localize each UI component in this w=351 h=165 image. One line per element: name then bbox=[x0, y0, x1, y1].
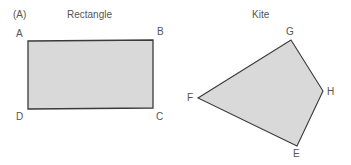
vertex-label-g: G bbox=[286, 27, 294, 37]
vertex-label-e: E bbox=[293, 149, 300, 159]
vertex-label-b: B bbox=[157, 27, 164, 37]
vertex-label-h: H bbox=[327, 87, 334, 97]
vertex-label-d: D bbox=[16, 112, 23, 122]
rectangle-shape bbox=[28, 40, 153, 109]
diagram-canvas bbox=[0, 0, 351, 165]
vertex-label-f: F bbox=[187, 93, 193, 103]
vertex-label-a: A bbox=[16, 29, 23, 39]
kite-title: Kite bbox=[252, 10, 269, 20]
vertex-label-c: C bbox=[156, 112, 163, 122]
kite-shape bbox=[198, 40, 323, 146]
rectangle-title: Rectangle bbox=[67, 10, 112, 20]
panel-label: (A) bbox=[13, 10, 26, 20]
